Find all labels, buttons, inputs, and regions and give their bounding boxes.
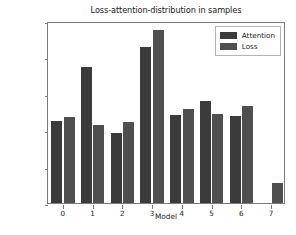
chart-title: Loss-attention-distribution in samples	[47, 5, 285, 15]
bar-group	[111, 23, 135, 203]
bar-group	[51, 23, 75, 203]
legend-item-attention[interactable]: Attention	[220, 30, 275, 41]
bar-loss-3	[153, 30, 164, 203]
x-tick-mark	[93, 205, 94, 209]
x-tick-label: 4	[170, 209, 194, 218]
legend-item-loss[interactable]: Loss	[220, 41, 275, 52]
y-tick-mark	[45, 169, 49, 170]
bar-attention-2	[111, 133, 122, 203]
bar-attention-0	[51, 121, 62, 203]
bar-attention-3	[140, 47, 151, 203]
x-tick-mark	[63, 205, 64, 209]
x-tick-label: 7	[259, 209, 283, 218]
bar-attention-5	[200, 101, 211, 203]
x-tick-label: 5	[200, 209, 224, 218]
x-tick-mark	[152, 205, 153, 209]
legend-label: Loss	[242, 42, 258, 51]
bar-loss-6	[242, 106, 253, 203]
y-tick-mark	[45, 23, 49, 24]
bar-group	[170, 23, 194, 203]
x-tick-label: 1	[81, 209, 105, 218]
bar-loss-1	[93, 125, 104, 203]
y-tick-mark	[45, 96, 49, 97]
x-tick-label: 2	[110, 209, 134, 218]
bar-loss-2	[123, 122, 134, 203]
bar-group	[140, 23, 164, 203]
x-tick-label: 3	[140, 209, 164, 218]
x-tick-mark	[271, 205, 272, 209]
y-tick-mark	[45, 132, 49, 133]
x-tick-mark	[241, 205, 242, 209]
legend-swatch-icon	[220, 32, 237, 39]
x-tick-label: 6	[229, 209, 253, 218]
y-tick-mark	[45, 205, 49, 206]
bar-loss-4	[183, 109, 194, 203]
bar-loss-7	[272, 183, 283, 203]
y-tick-mark	[45, 59, 49, 60]
x-tick-mark	[122, 205, 123, 209]
x-tick-mark	[212, 205, 213, 209]
chart-figure: Loss-attention-distribution in samples S…	[0, 0, 296, 235]
chart-legend: AttentionLoss	[215, 26, 281, 56]
bar-loss-5	[212, 114, 223, 203]
legend-swatch-icon	[220, 43, 237, 50]
bar-attention-4	[170, 115, 181, 203]
legend-label: Attention	[242, 31, 275, 40]
x-tick-label: 0	[51, 209, 75, 218]
bar-loss-0	[64, 117, 75, 203]
bar-attention-6	[230, 116, 241, 203]
bar-group	[81, 23, 105, 203]
plot-area: AttentionLoss 01000020000300004000050000…	[47, 22, 285, 204]
x-tick-mark	[182, 205, 183, 209]
bar-attention-1	[81, 67, 92, 203]
